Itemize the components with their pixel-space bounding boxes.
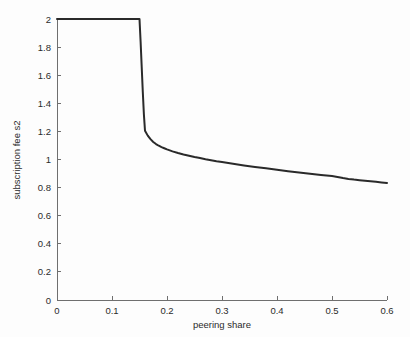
y-tick-label: 1.2 [38, 126, 51, 137]
y-tick-label: 1.4 [38, 98, 51, 109]
y-tick-label: 0.8 [38, 182, 51, 193]
x-tick-label: 0 [54, 305, 59, 316]
y-tick-label: 0.2 [38, 266, 51, 277]
line-chart: 00.20.40.60.811.21.41.61.82 00.10.20.30.… [0, 0, 410, 337]
x-tick-label: 0.6 [380, 305, 393, 316]
figure-background [0, 0, 410, 337]
y-tick-label: 0 [46, 295, 51, 306]
x-tick-label: 0.3 [215, 305, 228, 316]
x-tick-label: 0.4 [270, 305, 283, 316]
x-tick-label: 0.1 [105, 305, 118, 316]
y-tick-label: 1.8 [38, 42, 51, 53]
y-axis-label: subscription fee s2 [11, 120, 22, 199]
y-tick-label: 0.4 [38, 238, 51, 249]
y-tick-label: 0.6 [38, 210, 51, 221]
y-tick-label: 2 [46, 14, 51, 25]
chart-figure: 00.20.40.60.811.21.41.61.82 00.10.20.30.… [0, 0, 410, 337]
y-tick-label: 1.6 [38, 70, 51, 81]
x-tick-label: 0.2 [160, 305, 173, 316]
x-tick-label: 0.5 [325, 305, 338, 316]
x-axis-label: peering share [193, 319, 251, 330]
y-tick-label: 1 [46, 154, 51, 165]
